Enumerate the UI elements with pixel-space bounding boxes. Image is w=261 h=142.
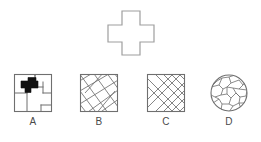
target-cross-icon — [105, 8, 157, 58]
option-c-figure-icon[interactable] — [146, 73, 186, 113]
option-a[interactable]: A — [11, 72, 55, 134]
option-a-label: A — [11, 116, 55, 128]
puzzle-root: A B — [0, 0, 261, 142]
option-d[interactable]: D — [207, 72, 251, 134]
option-a-figure-icon[interactable] — [13, 73, 53, 113]
option-d-label: D — [207, 116, 251, 128]
option-d-figure-icon[interactable] — [209, 73, 249, 113]
option-b[interactable]: B — [77, 72, 121, 134]
option-c[interactable]: C — [144, 72, 188, 134]
option-c-label: C — [144, 116, 188, 128]
option-b-figure-icon[interactable] — [79, 73, 119, 113]
option-b-label: B — [77, 116, 121, 128]
